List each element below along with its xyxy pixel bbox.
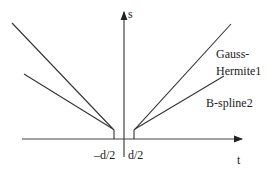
- tick-label-right: d/2: [128, 148, 143, 162]
- x-axis-label: t: [237, 153, 241, 167]
- y-axis-label: s: [128, 7, 133, 21]
- gauss-hermite-curve-left: [12, 23, 114, 139]
- tick-label-left: –d/2: [93, 148, 115, 162]
- diagram-canvas: s t –d/2 d/2 Gauss- Hermite1 B-spline2: [0, 0, 270, 169]
- gauss-hermite-label-line1: Gauss-: [216, 47, 249, 61]
- bspline-label: B-spline2: [206, 96, 253, 110]
- gauss-hermite-label-line2: Hermite1: [216, 64, 261, 78]
- gauss-hermite-curve-right: [134, 24, 231, 139]
